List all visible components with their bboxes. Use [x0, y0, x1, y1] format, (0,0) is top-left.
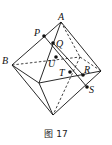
edge-front-bottom: [39, 83, 53, 115]
octahedron-diagram: A B P Q U T R S: [0, 0, 112, 145]
label-P: P: [33, 27, 40, 38]
label-B: B: [2, 55, 8, 66]
edge-B-bottom: [12, 65, 53, 115]
label-R: R: [83, 64, 90, 75]
point-Q: [51, 41, 55, 45]
edge-B-front: [12, 65, 39, 83]
label-T: T: [59, 67, 66, 78]
label-Q: Q: [56, 38, 64, 49]
hidden-edge-A-back: [61, 22, 80, 57]
label-U: U: [48, 58, 56, 69]
point-P: [42, 34, 46, 38]
label-S: S: [89, 84, 94, 95]
point-T: [68, 70, 72, 74]
hidden-edge-back-bottom: [53, 57, 80, 115]
label-A: A: [57, 11, 65, 22]
figure-caption: 图 17: [0, 127, 112, 140]
